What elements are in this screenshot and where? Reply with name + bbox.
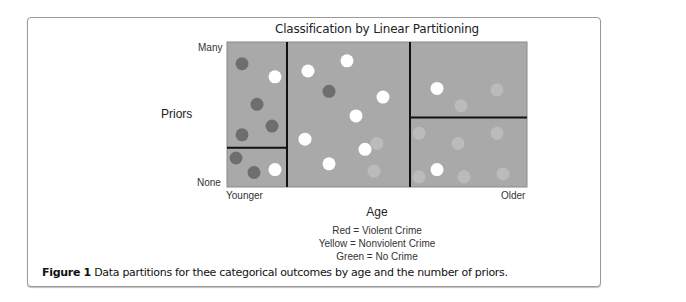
data-point-violent xyxy=(236,128,249,141)
y-tick-none: None xyxy=(197,177,221,188)
data-point-nonviolent xyxy=(431,82,444,95)
x-tick-older: Older xyxy=(501,190,525,201)
data-point-none xyxy=(491,83,504,96)
legend-entry-nonviolent: Yellow = Nonviolent Crime xyxy=(227,237,527,250)
data-point-violent xyxy=(248,166,261,179)
data-point-nonviolent xyxy=(269,70,282,83)
data-point-none xyxy=(497,167,510,180)
figure-caption: Figure 1 Data partitions for thee catego… xyxy=(42,266,508,279)
data-point-nonviolent xyxy=(431,163,444,176)
x-tick-younger: Younger xyxy=(226,190,263,201)
x-axis-label: Age xyxy=(227,205,527,219)
figure-label: Figure 1 xyxy=(42,266,91,279)
data-point-nonviolent xyxy=(341,54,354,67)
legend-entry-no-crime: Green = No Crime xyxy=(227,250,527,263)
legend-entry-violent: Red = Violent Crime xyxy=(227,224,527,237)
data-point-violent xyxy=(230,152,243,165)
data-point-violent xyxy=(251,98,264,111)
data-point-nonviolent xyxy=(299,133,312,146)
data-point-nonviolent xyxy=(302,65,315,78)
caption-text: Data partitions for thee categorical out… xyxy=(91,266,508,279)
data-point-none xyxy=(413,170,426,183)
data-point-nonviolent xyxy=(359,143,372,156)
data-point-none xyxy=(452,137,465,150)
data-point-violent xyxy=(266,120,279,133)
data-point-nonviolent xyxy=(377,91,390,104)
y-tick-many: Many xyxy=(198,42,222,53)
data-point-violent xyxy=(323,85,336,98)
data-point-none xyxy=(371,137,384,150)
legend: Red = Violent Crime Yellow = Nonviolent … xyxy=(227,224,527,263)
data-point-violent xyxy=(236,57,249,70)
data-point-nonviolent xyxy=(350,109,363,122)
data-point-nonviolent xyxy=(269,163,282,176)
data-point-nonviolent xyxy=(323,157,336,170)
y-axis-label: Priors xyxy=(161,107,192,121)
data-point-none xyxy=(491,127,504,140)
data-point-none xyxy=(455,99,468,112)
data-point-none xyxy=(413,127,426,140)
data-point-none xyxy=(368,165,381,178)
data-point-none xyxy=(458,170,471,183)
